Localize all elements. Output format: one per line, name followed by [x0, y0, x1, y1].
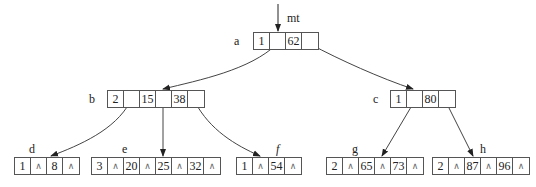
node-label-a: a	[234, 34, 239, 49]
pointer-cell	[188, 91, 204, 107]
null-pointer: ∧	[407, 158, 423, 174]
node-label-b: b	[89, 92, 95, 107]
key-cell: 32	[188, 158, 204, 174]
node-label-c: c	[373, 92, 378, 107]
key-cell: 54	[269, 158, 285, 174]
node-a: 1 62	[253, 32, 319, 50]
node-h: 2 ∧ 87 ∧ 96 ∧	[432, 157, 530, 175]
key-count: 1	[237, 158, 253, 174]
key-count: 2	[433, 158, 449, 174]
key-cell: 87	[465, 158, 481, 174]
key-cell: 15	[140, 91, 156, 107]
key-count: 1	[254, 33, 270, 49]
key-count: 1	[15, 158, 31, 174]
node-d: 1 ∧ 8 ∧	[14, 157, 80, 175]
null-pointer: ∧	[172, 158, 188, 174]
edge-a-b	[163, 44, 277, 89]
null-pointer: ∧	[449, 158, 465, 174]
node-c: 1 80	[390, 90, 456, 108]
edge-b-d	[51, 102, 130, 156]
pointer-cell	[407, 91, 423, 107]
key-count: 2	[108, 91, 124, 107]
key-cell: 62	[286, 33, 302, 49]
pointer-cell	[302, 33, 318, 49]
edge-c-h	[446, 102, 473, 156]
key-cell: 8	[47, 158, 63, 174]
null-pointer: ∧	[253, 158, 269, 174]
key-count: 3	[92, 158, 108, 174]
pointer-cell	[439, 91, 455, 107]
node-label-h: h	[480, 142, 486, 157]
null-pointer: ∧	[285, 158, 301, 174]
null-pointer: ∧	[204, 158, 220, 174]
key-cell: 20	[124, 158, 140, 174]
edge-c-g	[382, 102, 414, 156]
null-pointer: ∧	[375, 158, 391, 174]
node-label-d: d	[29, 142, 35, 157]
key-cell: 65	[359, 158, 375, 174]
null-pointer: ∧	[108, 158, 124, 174]
key-cell: 25	[156, 158, 172, 174]
null-pointer: ∧	[63, 158, 79, 174]
key-count: 1	[391, 91, 407, 107]
null-pointer: ∧	[31, 158, 47, 174]
key-cell: 38	[172, 91, 188, 107]
node-label-g: g	[352, 142, 358, 157]
edge-b-f	[195, 102, 260, 156]
null-pointer: ∧	[140, 158, 156, 174]
key-cell: 73	[391, 158, 407, 174]
pointer-cell	[124, 91, 140, 107]
node-g: 2 ∧ 65 ∧ 73 ∧	[326, 157, 424, 175]
pointer-cell	[270, 33, 286, 49]
null-pointer: ∧	[343, 158, 359, 174]
null-pointer: ∧	[513, 158, 529, 174]
key-cell: 80	[423, 91, 439, 107]
node-label-e: e	[122, 142, 127, 157]
node-e: 3 ∧ 20 ∧ 25 ∧ 32 ∧	[91, 157, 221, 175]
key-cell: 96	[497, 158, 513, 174]
key-count: 2	[327, 158, 343, 174]
pointer-cell	[156, 91, 172, 107]
null-pointer: ∧	[481, 158, 497, 174]
node-label-f: f	[276, 142, 279, 157]
root-pointer-label: mt	[287, 11, 300, 26]
edge-a-c	[310, 44, 413, 89]
node-b: 2 15 38	[107, 90, 205, 108]
node-f: 1 ∧ 54 ∧	[236, 157, 302, 175]
